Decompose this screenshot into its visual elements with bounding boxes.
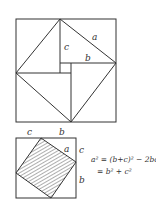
bottom-label-top-c: c (27, 127, 32, 137)
pythagorean-proof-diagram: a c b c b a c b a² = (b+c)² − 2bc = b² +… (0, 0, 156, 211)
bottom-label-right-b: b (79, 175, 85, 185)
bottom-label-a: a (64, 144, 69, 154)
top-label-a: a (92, 32, 97, 42)
bottom-label-top-b: b (59, 127, 65, 137)
top-label-b: b (85, 53, 91, 63)
top-tilted-square (16, 19, 116, 122)
equation-line-2: = b² + c² (97, 167, 132, 176)
top-figure (16, 19, 116, 122)
bottom-label-right-c: c (79, 145, 84, 155)
top-outer-square (16, 19, 116, 122)
equation-line-1: a² = (b+c)² − 2bc (91, 155, 156, 164)
top-label-c: c (64, 42, 69, 52)
